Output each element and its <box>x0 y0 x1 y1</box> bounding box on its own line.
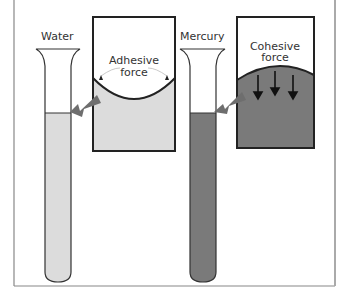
adhesive-label-line2: force <box>120 66 148 79</box>
diagram-canvas: Water Adhesive force Mercury Cohesive fo… <box>0 0 342 299</box>
water-tube <box>36 49 80 282</box>
mercury-label: Mercury <box>180 30 225 43</box>
mercury-tube <box>180 49 225 282</box>
water-label: Water <box>41 30 74 43</box>
adhesive-inset <box>93 17 175 151</box>
cohesive-label-line2: force <box>261 51 289 64</box>
